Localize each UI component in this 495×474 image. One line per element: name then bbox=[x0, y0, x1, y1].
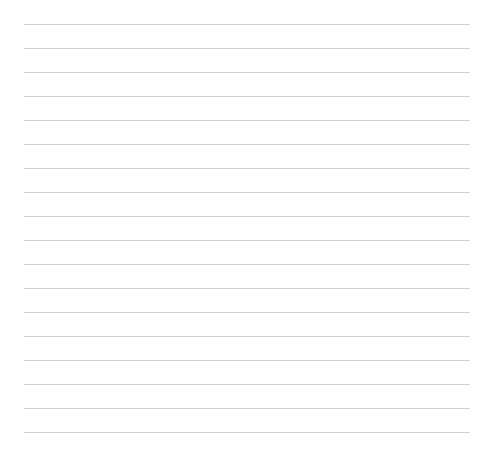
ruled-line bbox=[24, 144, 470, 145]
ruled-line bbox=[24, 240, 470, 241]
ruled-line bbox=[24, 192, 470, 193]
ruled-line bbox=[24, 168, 470, 169]
ruled-line bbox=[24, 384, 470, 385]
ruled-line bbox=[24, 432, 470, 433]
ruled-line bbox=[24, 312, 470, 313]
ruled-line bbox=[24, 72, 470, 73]
ruled-line bbox=[24, 360, 470, 361]
ruled-line bbox=[24, 264, 470, 265]
ruled-line bbox=[24, 288, 470, 289]
ruled-line bbox=[24, 408, 470, 409]
ruled-line bbox=[24, 120, 470, 121]
ruled-line bbox=[24, 24, 470, 25]
ruled-line bbox=[24, 96, 470, 97]
ruled-line bbox=[24, 48, 470, 49]
lined-page bbox=[0, 0, 495, 474]
ruled-line bbox=[24, 336, 470, 337]
ruled-line bbox=[24, 216, 470, 217]
